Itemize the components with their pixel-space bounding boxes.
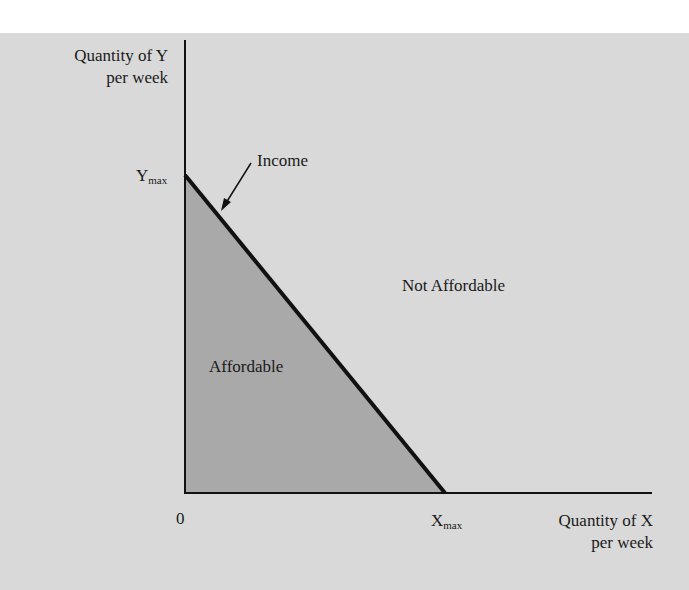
ymax-label: Ymax (136, 165, 167, 191)
affordable-label: Affordable (209, 356, 283, 378)
income-label: Income (257, 150, 308, 172)
x-axis-label: Quantity of X per week (510, 510, 653, 554)
origin-label: 0 (176, 508, 185, 530)
income-arrow-shaft (226, 163, 251, 203)
not-affordable-label: Not Affordable (402, 275, 505, 297)
xmax-label: Xmax (431, 510, 462, 536)
income-arrow-head (221, 198, 231, 211)
y-axis-label: Quantity of Y per week (40, 45, 168, 89)
